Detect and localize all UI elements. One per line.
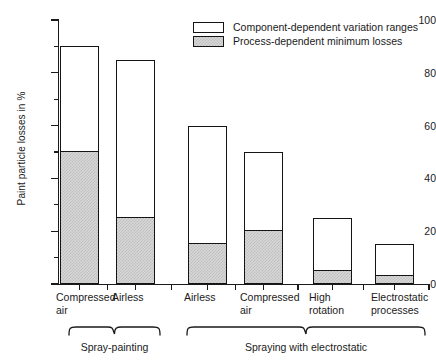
y-tick-label: 20 xyxy=(392,226,436,237)
x-tick xyxy=(297,284,298,290)
legend-label-component-dependent: Component-dependent variation ranges xyxy=(233,21,418,33)
x-axis-line xyxy=(58,284,429,285)
x-tick xyxy=(428,284,429,290)
bar-segment-minimum-losses xyxy=(189,243,226,283)
bar-segment-minimum-losses xyxy=(245,230,282,283)
bar-segment-minimum-losses xyxy=(117,217,154,283)
category-label: High rotation xyxy=(309,291,344,316)
y-tick-major xyxy=(51,283,59,284)
bar xyxy=(60,46,99,284)
y-tick-major xyxy=(51,231,59,232)
group-brace xyxy=(186,325,426,337)
category-label: Airless xyxy=(184,291,216,304)
x-tick xyxy=(332,284,333,290)
x-tick xyxy=(107,284,108,290)
x-tick xyxy=(363,284,364,290)
y-tick-minor xyxy=(54,99,59,100)
paint-particle-losses-chart: Paint particle losses in % 020406080100 … xyxy=(0,0,436,360)
category-label: Electrostatic processes xyxy=(371,291,428,316)
y-tick-minor xyxy=(54,204,59,205)
y-tick-label: 60 xyxy=(392,121,436,132)
x-tick xyxy=(207,284,208,290)
x-tick xyxy=(135,284,136,290)
bar xyxy=(244,152,283,284)
legend-swatch-open-box xyxy=(193,22,224,33)
x-tick xyxy=(263,284,264,290)
bar xyxy=(116,60,155,284)
bar xyxy=(188,126,227,284)
y-axis-title: Paint particle losses in % xyxy=(16,49,27,249)
y-tick-minor xyxy=(54,151,59,152)
group-brace xyxy=(68,325,161,337)
legend-item-component-dependent: Component-dependent variation ranges xyxy=(193,21,418,33)
y-tick-minor xyxy=(54,46,59,47)
x-tick xyxy=(171,284,172,290)
bar-segment-minimum-losses xyxy=(376,275,413,283)
legend-label-process-dependent: Process-dependent minimum losses xyxy=(233,35,402,47)
category-label: Airless xyxy=(112,291,144,304)
y-tick-major xyxy=(51,72,59,73)
y-tick-minor xyxy=(54,257,59,258)
category-label: Compressed air xyxy=(56,291,116,316)
category-label: Compressed air xyxy=(240,291,300,316)
y-tick-label: 40 xyxy=(392,173,436,184)
group-label: Spraying with electrostatic xyxy=(186,341,426,353)
x-tick xyxy=(79,284,80,290)
y-tick-major xyxy=(51,178,59,179)
bar xyxy=(375,244,414,284)
legend-swatch-hatched-box xyxy=(193,36,224,47)
bar xyxy=(313,218,352,284)
y-tick-major xyxy=(51,125,59,126)
bar-segment-minimum-losses xyxy=(61,151,98,283)
legend-item-process-dependent: Process-dependent minimum losses xyxy=(193,35,402,47)
x-tick xyxy=(235,284,236,290)
y-tick-label: 80 xyxy=(392,68,436,79)
x-tick xyxy=(394,284,395,290)
y-tick-major xyxy=(51,19,59,20)
bar-segment-minimum-losses xyxy=(314,270,351,283)
group-label: Spray-painting xyxy=(68,341,161,353)
